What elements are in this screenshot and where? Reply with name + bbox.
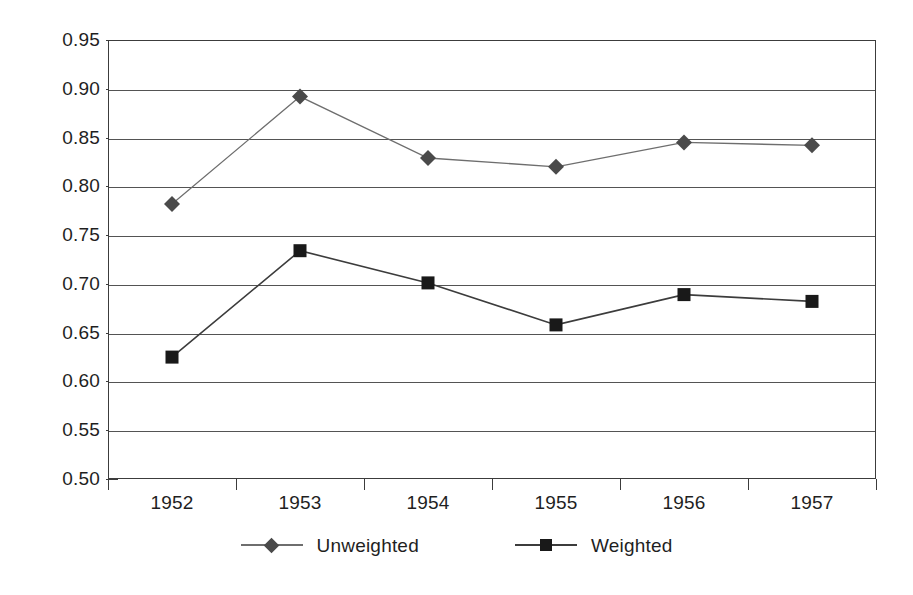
gridline	[109, 90, 875, 91]
legend-label: Weighted	[591, 536, 673, 555]
y-tick-label: 0.90	[38, 79, 100, 98]
chart-legend: UnweightedWeighted	[0, 528, 913, 562]
y-tick-label: 0.80	[38, 176, 100, 195]
x-tick-mark	[748, 479, 749, 490]
legend-entry-unweighted[interactable]: Unweighted	[241, 536, 419, 555]
x-tick-label: 1957	[748, 492, 876, 514]
y-tick-label: 0.95	[38, 30, 100, 49]
chart-figure: 0.950.900.850.800.750.700.650.600.550.50…	[0, 0, 913, 595]
y-axis: 0.950.900.850.800.750.700.650.600.550.50	[20, 0, 100, 595]
diamond-marker-icon	[263, 538, 279, 554]
plot-area	[108, 40, 876, 479]
gridline	[109, 236, 875, 237]
x-tick-label: 1956	[620, 492, 748, 514]
gridline	[109, 382, 875, 383]
y-tick-label: 0.75	[38, 225, 100, 244]
y-tick-label: 0.70	[38, 274, 100, 293]
y-tick-label: 0.85	[38, 128, 100, 147]
x-tick-mark	[876, 479, 877, 490]
x-tick-label: 1955	[492, 492, 620, 514]
x-tick-mark	[364, 479, 365, 490]
x-tick-label: 1954	[364, 492, 492, 514]
gridline	[109, 431, 875, 432]
gridline	[109, 139, 875, 140]
square-marker-icon	[540, 539, 552, 551]
legend-swatch	[241, 536, 303, 554]
y-tick-label: 0.60	[38, 371, 100, 390]
x-tick-mark	[108, 479, 109, 490]
legend-swatch	[515, 536, 577, 554]
y-tick-label: 0.55	[38, 420, 100, 439]
legend-entry-weighted[interactable]: Weighted	[515, 536, 673, 555]
x-tick-label: 1953	[236, 492, 364, 514]
gridline	[109, 334, 875, 335]
y-tick-label: 0.50	[38, 469, 100, 488]
x-tick-mark	[492, 479, 493, 490]
gridline	[109, 285, 875, 286]
x-tick-mark	[236, 479, 237, 490]
gridline	[109, 187, 875, 188]
x-tick-mark	[620, 479, 621, 490]
y-tick-label: 0.65	[38, 323, 100, 342]
x-tick-label: 1952	[108, 492, 236, 514]
legend-label: Unweighted	[317, 536, 419, 555]
